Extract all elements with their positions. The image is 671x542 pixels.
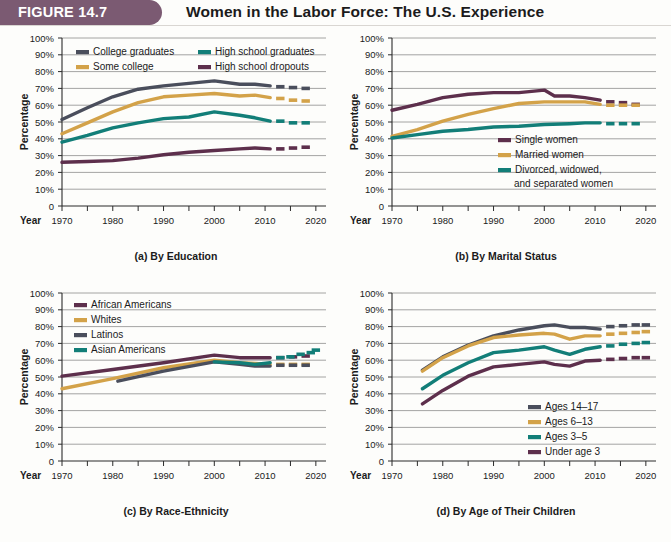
x-axis-tick-label: 2020 (305, 470, 326, 481)
x-axis-tick-label: 1980 (102, 470, 123, 481)
series-projection-dash (619, 342, 627, 346)
chart-svg-b: 100%90%80%70%60%50%40%30%20%10%019701980… (346, 28, 666, 243)
x-axis-tick-label: 2010 (585, 470, 606, 481)
series-projection-dash (606, 325, 614, 329)
series-projection-dash (619, 357, 627, 361)
legend-swatch (198, 65, 211, 69)
chart-caption-a: (a) By Education (16, 250, 336, 262)
y-axis-tick-label: 90% (35, 304, 55, 315)
y-axis-tick-label: 0 (49, 456, 54, 467)
y-axis-tick-label: 70% (365, 83, 385, 94)
y-axis-tick-label: 80% (365, 66, 385, 77)
figure-header: FIGURE 14.7 Women in the Labor Force: Th… (0, 0, 671, 25)
series-projection-dash (289, 98, 297, 102)
series-projection-dash (301, 121, 309, 125)
y-axis-tick-label: 0 (379, 456, 384, 467)
x-axis-tick-label: 2020 (305, 215, 326, 226)
y-axis-tick-label: 20% (35, 422, 55, 433)
legend-swatch (498, 168, 511, 172)
legend-label: High school graduates (215, 46, 315, 57)
y-axis-tick-label: 70% (35, 83, 55, 94)
legend-swatch (498, 138, 511, 142)
series-projection-dash (631, 356, 639, 360)
legend-swatch (76, 65, 89, 69)
series-projection-dash (276, 147, 284, 151)
legend-label: Single women (515, 134, 578, 145)
y-axis-tick-label: 50% (365, 117, 385, 128)
y-axis-tick-label: 100% (360, 33, 385, 44)
y-axis-tick-label: 100% (360, 288, 385, 299)
y-axis-tick-label: 50% (365, 372, 385, 383)
y-axis-tick-label: 40% (365, 133, 385, 144)
y-axis-tick-label: 10% (35, 184, 55, 195)
series-line (62, 112, 270, 142)
chart-panel-c: 100%90%80%70%60%50%40%30%20%10%019701980… (16, 283, 336, 523)
chart-caption-d: (d) By Age of Their Children (346, 505, 666, 517)
legend-label: Ages 3–5 (545, 431, 588, 442)
legend-label: High school dropouts (215, 61, 309, 72)
y-axis-tick-label: 60% (365, 100, 385, 111)
legend-label: Under age 3 (545, 446, 600, 457)
y-axis-tick-label: 30% (35, 150, 55, 161)
series-projection-dash (606, 103, 614, 107)
y-axis-title: Percentage (18, 94, 30, 151)
series-projection-dash (631, 122, 639, 126)
series-projection-dash (296, 353, 304, 357)
y-axis-tick-label: 10% (365, 439, 385, 450)
x-axis-title: Year (20, 215, 41, 226)
legend-swatch (74, 348, 87, 352)
x-axis-tick-label: 2020 (635, 470, 656, 481)
y-axis-tick-label: 50% (35, 372, 55, 383)
series-projection-dash (276, 119, 284, 123)
chart-svg-c: 100%90%80%70%60%50%40%30%20%10%019701980… (16, 283, 336, 498)
series-projection-dash (631, 342, 639, 346)
y-axis-tick-label: 60% (35, 355, 55, 366)
x-axis-tick-label: 1990 (153, 470, 174, 481)
x-axis-tick-label: 1970 (381, 470, 402, 481)
figure-number-label: FIGURE 14.7 (18, 4, 107, 20)
x-axis-tick-label: 1980 (102, 215, 123, 226)
legend-swatch (74, 333, 87, 337)
y-axis-tick-label: 0 (49, 201, 54, 212)
x-axis-tick-label: 2010 (585, 215, 606, 226)
series-projection-dash (301, 87, 309, 91)
series-projection-dash (606, 122, 614, 126)
legend-swatch (76, 50, 89, 54)
x-axis-tick-label: 2000 (534, 215, 555, 226)
series-projection-dash (606, 100, 614, 104)
y-axis-tick-label: 60% (35, 100, 55, 111)
x-axis-tick-label: 1970 (51, 470, 72, 481)
y-axis-tick-label: 20% (35, 167, 55, 178)
legend-swatch (528, 420, 541, 424)
y-axis-tick-label: 40% (35, 133, 55, 144)
y-axis-tick-label: 20% (365, 422, 385, 433)
x-axis-tick-label: 2000 (534, 470, 555, 481)
legend-swatch (498, 153, 511, 157)
x-axis-tick-label: 1970 (51, 215, 72, 226)
x-axis-tick-label: 1990 (483, 470, 504, 481)
y-axis-tick-label: 40% (365, 388, 385, 399)
legend-label: Ages 6–13 (545, 416, 593, 427)
x-axis-title: Year (20, 470, 41, 481)
legend-swatch (74, 303, 87, 307)
y-axis-title: Percentage (348, 349, 360, 406)
series-projection-dash (289, 146, 297, 150)
series-projection-dash (631, 103, 639, 107)
chart-panel-d: 100%90%80%70%60%50%40%30%20%10%019701980… (346, 283, 666, 523)
series-projection-dash (276, 356, 284, 360)
legend-label: College graduates (93, 46, 174, 57)
legend-swatch (198, 50, 211, 54)
legend-label: Married women (515, 149, 584, 160)
x-axis-tick-label: 2000 (204, 215, 225, 226)
y-axis-tick-label: 10% (365, 184, 385, 195)
chart-caption-c: (c) By Race-Ethnicity (16, 505, 336, 517)
series-line (62, 148, 270, 162)
chart-svg-a: 100%90%80%70%60%50%40%30%20%10%019701980… (16, 28, 336, 243)
chart-panel-b: 100%90%80%70%60%50%40%30%20%10%019701980… (346, 28, 666, 268)
y-axis-tick-label: 90% (35, 49, 55, 60)
series-projection-dash (312, 348, 320, 352)
figure-title: Women in the Labor Force: The U.S. Exper… (186, 3, 544, 21)
y-axis-tick-label: 60% (365, 355, 385, 366)
series-projection-dash (301, 99, 309, 103)
y-axis-tick-label: 100% (30, 288, 55, 299)
